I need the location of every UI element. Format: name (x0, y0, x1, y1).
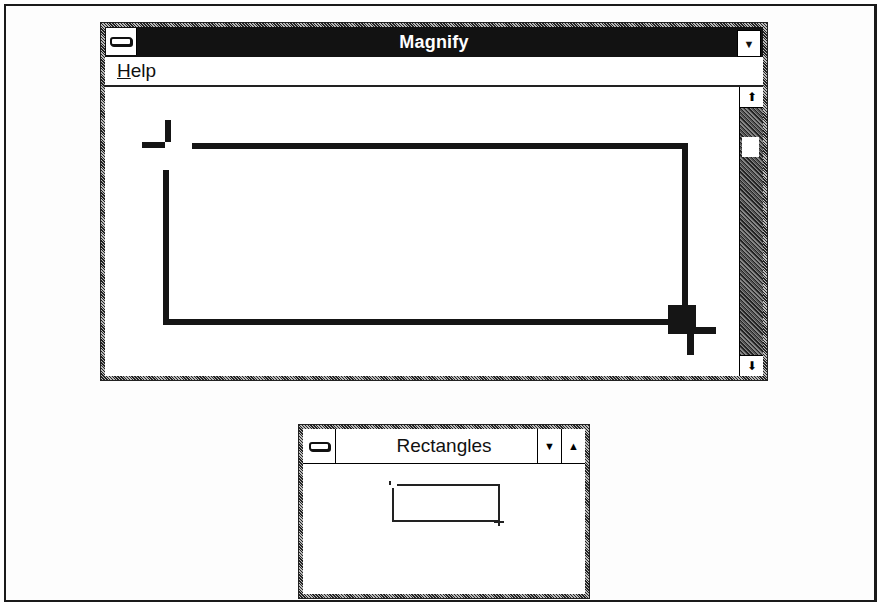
magnified-canvas[interactable] (105, 87, 739, 376)
system-menu-button[interactable] (106, 28, 137, 55)
arrow-down-icon: ⬇ (747, 359, 757, 373)
menu-help[interactable]: Help (117, 60, 156, 82)
vertical-scrollbar[interactable]: ⬆ ⬇ (739, 87, 763, 376)
system-menu-button[interactable] (303, 429, 336, 463)
rect-top-edge (397, 484, 500, 486)
rect-right-edge (498, 484, 500, 520)
minimize-button[interactable]: ▼ (537, 429, 561, 463)
magnify-titlebar[interactable]: Magnify ▼ (105, 27, 763, 58)
system-menu-icon (309, 442, 330, 451)
maximize-icon: ▲ (568, 440, 579, 452)
end-cursor-horizontal (494, 521, 504, 523)
menu-help-label: elp (131, 60, 156, 81)
start-cursor-tick (389, 481, 391, 485)
maximize-button[interactable]: ▲ (561, 429, 585, 463)
rectangles-window: Rectangles ▼ ▲ (299, 425, 589, 598)
rect-bottom-edge (163, 319, 693, 325)
minimize-icon: ▼ (744, 38, 755, 50)
menu-help-mnemonic: H (117, 60, 131, 81)
rect-left-edge (163, 170, 169, 325)
system-menu-icon (110, 37, 132, 46)
minimize-button[interactable]: ▼ (737, 30, 761, 57)
rect-top-edge (192, 143, 685, 149)
magnify-window: Magnify ▼ Help ⬆ ⬇ (101, 23, 767, 380)
window-title: Rectangles (396, 435, 491, 457)
rect-bottom-edge (392, 520, 500, 522)
start-cursor-horizontal (142, 142, 165, 148)
drawing-canvas[interactable] (303, 464, 585, 594)
scroll-up-button[interactable]: ⬆ (740, 87, 763, 108)
start-cursor-vertical (165, 120, 171, 142)
scroll-thumb[interactable] (742, 137, 759, 157)
rectangles-titlebar[interactable]: Rectangles ▼ ▲ (303, 429, 585, 464)
arrow-up-icon: ⬆ (747, 90, 757, 104)
rect-right-edge (682, 143, 688, 318)
minimize-icon: ▼ (544, 440, 555, 452)
end-cursor-horizontal (668, 327, 716, 334)
menu-bar: Help (105, 57, 763, 87)
window-title: Magnify (399, 32, 468, 53)
rect-left-edge (392, 488, 394, 522)
scroll-down-button[interactable]: ⬇ (740, 355, 763, 376)
